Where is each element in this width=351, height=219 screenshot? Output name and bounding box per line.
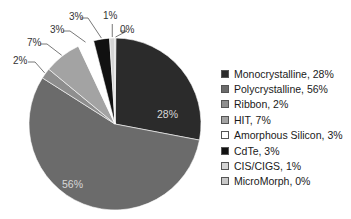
legend-item-micromorph: MicroMorph, 0% — [221, 174, 343, 189]
legend-swatch — [221, 85, 229, 93]
legend-item-monocrystalline: Monocrystalline, 28% — [221, 66, 343, 81]
legend-label: HIT, 7% — [234, 114, 271, 126]
legend-swatch — [221, 100, 229, 108]
pie-slice-monocrystalline — [115, 38, 201, 140]
legend-item-amorphous-silicon: Amorphous Silicon, 3% — [221, 128, 343, 143]
legend-label: Ribbon, 2% — [234, 98, 288, 110]
slice-value-label: 56% — [62, 178, 83, 190]
legend-swatch — [221, 162, 229, 170]
slice-value-label: 1% — [103, 10, 118, 21]
legend-item-hit: HIT, 7% — [221, 112, 343, 127]
legend-item-cdte: CdTe, 3% — [221, 143, 343, 158]
slice-value-label: 3% — [69, 11, 84, 22]
legend-swatch — [221, 147, 229, 155]
legend-swatch — [221, 131, 229, 139]
legend-label: Amorphous Silicon, 3% — [234, 129, 343, 141]
slice-value-label: 2% — [13, 55, 28, 66]
pie-slices — [29, 38, 201, 210]
leader-line — [63, 31, 86, 42]
legend: Monocrystalline, 28% Polycrystalline, 56… — [221, 66, 343, 189]
slice-value-label: 7% — [27, 37, 42, 48]
legend-item-ribbon: Ribbon, 2% — [221, 97, 343, 112]
leader-line — [40, 44, 62, 55]
slice-value-label: 3% — [50, 24, 65, 35]
legend-swatch — [221, 177, 229, 185]
legend-swatch — [221, 116, 229, 124]
legend-item-polycrystalline: Polycrystalline, 56% — [221, 81, 343, 96]
slice-value-label: 0% — [120, 24, 135, 35]
legend-label: CIS/CIGS, 1% — [234, 160, 301, 172]
leader-line — [28, 62, 45, 73]
legend-swatch — [221, 70, 229, 78]
legend-label: CdTe, 3% — [234, 145, 280, 157]
legend-label: Monocrystalline, 28% — [234, 68, 334, 80]
slice-value-label: 28% — [157, 108, 178, 120]
legend-label: Polycrystalline, 56% — [234, 83, 328, 95]
legend-label: MicroMorph, 0% — [234, 175, 310, 187]
leader-line — [81, 18, 101, 38]
legend-item-cis-cigs: CIS/CIGS, 1% — [221, 158, 343, 173]
